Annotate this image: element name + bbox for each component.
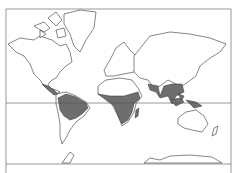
shaded-madagascar	[135, 108, 139, 118]
australia	[178, 110, 208, 132]
north-america	[8, 36, 72, 94]
shaded-central-america	[42, 84, 58, 95]
greenland	[64, 10, 96, 52]
antarctica	[62, 152, 222, 163]
new-zealand	[212, 126, 218, 136]
asia	[134, 32, 226, 88]
arctic-islands	[34, 12, 66, 38]
world-map	[0, 0, 233, 173]
